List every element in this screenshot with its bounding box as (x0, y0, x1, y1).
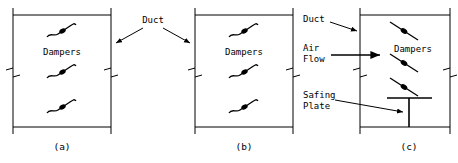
panel-a-left-break-mark (6, 68, 20, 77)
panel-a-right-break-mark (104, 68, 118, 77)
panel-c: Duct Air Flow Dampers Safing Plate (c) (303, 8, 457, 152)
panel-c-damper-2 (390, 54, 418, 72)
panel-c-air-label: Air (303, 43, 320, 53)
panel-b-damper-3 (229, 100, 258, 113)
panel-c-right-break-mark (443, 68, 457, 77)
panel-a-damper-1 (47, 24, 76, 37)
panel-c-caption: (c) (400, 141, 417, 152)
safing-plate-leader (335, 100, 403, 112)
panel-a: Dampers (a) (6, 8, 118, 152)
panel-c-safing-label: Safing (303, 90, 336, 100)
panel-b-dampers-label: Dampers (225, 47, 263, 57)
panel-b-damper-1 (229, 24, 258, 37)
panel-a-damper-3 (47, 100, 76, 113)
panel-a-damper-2 (47, 65, 76, 78)
panel-b: Dampers (b) (188, 8, 300, 152)
panel-c-dampers-label: Dampers (394, 44, 432, 54)
panel-c-left-break-mark (353, 68, 367, 77)
panel-c-duct-label: Duct (303, 14, 325, 24)
panel-a-dampers-label: Dampers (43, 47, 81, 57)
panel-c-flow-label: Flow (303, 54, 325, 64)
panel-b-right-break-mark (286, 68, 300, 77)
panel-c-duct-leader (330, 22, 357, 31)
panel-c-damper-1 (390, 22, 418, 40)
panel-b-damper-2 (229, 65, 258, 78)
panel-a-caption: (a) (53, 141, 70, 152)
duct-callout-label: Duct (142, 15, 164, 25)
duct-damper-figure: Dampers (a) Duct Dampers (b) (0, 0, 458, 163)
panel-c-damper-3 (390, 78, 418, 96)
panel-c-plate-label: Plate (303, 101, 330, 111)
duct-callout-arrow-right (163, 28, 190, 43)
panel-b-left-break-mark (188, 68, 202, 77)
panel-b-caption: (b) (235, 141, 252, 152)
duct-callout-arrow-left (116, 28, 143, 43)
duct-callout: Duct (116, 15, 190, 43)
figure-svg: Dampers (a) Duct Dampers (b) (0, 0, 458, 163)
